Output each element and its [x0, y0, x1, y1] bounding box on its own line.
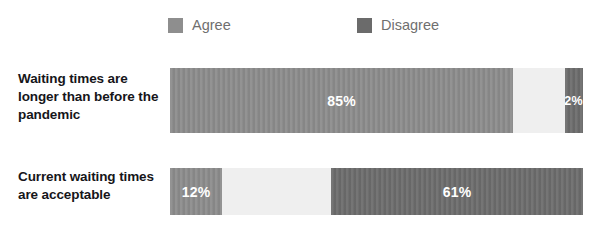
- legend-label-agree: Agree: [192, 18, 231, 33]
- legend-item-disagree[interactable]: Disagree: [357, 14, 439, 36]
- bar-segment-agree[interactable]: 85%: [170, 68, 513, 133]
- chart-row: Current waiting times are acceptable 12%…: [0, 168, 594, 216]
- bar-segment-neutral[interactable]: [513, 68, 565, 133]
- row-category-label: Waiting times are longer than before the…: [18, 70, 163, 123]
- legend-label-disagree: Disagree: [381, 18, 439, 33]
- stacked-bar-chart: Agree Disagree Waiting times are longer …: [0, 0, 594, 241]
- legend-swatch-icon-agree: [168, 18, 183, 33]
- bar-segment-disagree[interactable]: 61%: [331, 168, 583, 215]
- legend-item-agree[interactable]: Agree: [168, 14, 231, 36]
- stacked-bar: 12% 61%: [170, 168, 583, 215]
- bar-segment-neutral[interactable]: [222, 168, 331, 215]
- chart-legend: Agree Disagree: [0, 12, 594, 40]
- bar-segment-disagree[interactable]: 2%: [565, 68, 583, 133]
- bar-segment-agree[interactable]: 12%: [170, 168, 222, 215]
- chart-row: Waiting times are longer than before the…: [0, 68, 594, 134]
- stacked-bar: 85% 2%: [170, 68, 583, 133]
- bar-segment-value-disagree: 61%: [443, 184, 472, 200]
- bar-segment-value-disagree: 2%: [565, 94, 583, 108]
- bar-segment-value-agree: 85%: [327, 93, 356, 109]
- legend-swatch-icon-disagree: [357, 18, 372, 33]
- bar-segment-value-agree: 12%: [182, 184, 211, 200]
- row-category-label: Current waiting times are acceptable: [18, 168, 163, 204]
